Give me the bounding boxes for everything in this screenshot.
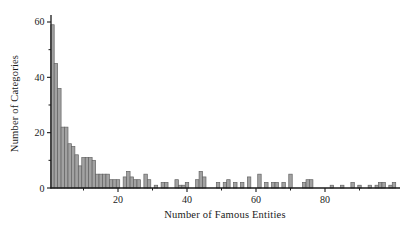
histogram-bar <box>351 182 354 188</box>
histogram-bar <box>234 182 237 188</box>
histogram-bar <box>75 155 78 188</box>
histogram-bar <box>275 182 278 188</box>
histogram-bar <box>282 182 285 188</box>
histogram-bar <box>134 180 137 188</box>
histogram-bar <box>392 182 395 188</box>
histogram-bar <box>309 180 312 188</box>
histogram-bar <box>265 182 268 188</box>
histogram-bar <box>175 180 178 188</box>
histogram-bar <box>82 158 85 188</box>
histogram-bar <box>227 180 230 188</box>
histogram-bar <box>106 174 109 188</box>
histogram-bar <box>54 64 57 189</box>
histogram-bar <box>203 177 206 188</box>
histogram-bar <box>196 180 199 188</box>
histogram-bar <box>96 174 99 188</box>
y-tick-label: 20 <box>35 127 45 138</box>
histogram-bar <box>78 166 81 188</box>
histogram-bar <box>99 174 102 188</box>
histogram-bar <box>289 174 292 188</box>
histogram-bar <box>137 180 140 188</box>
y-tick-label: 40 <box>35 72 45 83</box>
histogram-bar <box>116 180 119 188</box>
histogram-bar <box>303 182 306 188</box>
histogram-bar <box>258 174 261 188</box>
histogram-bar <box>382 182 385 188</box>
histogram-bar <box>130 177 133 188</box>
x-tick-label: 20 <box>113 194 123 205</box>
x-axis-title: Number of Famous Entities <box>125 209 325 220</box>
histogram-bar <box>65 127 68 188</box>
x-tick-label: 40 <box>182 194 192 205</box>
histogram-bar <box>144 174 147 188</box>
histogram-bar <box>92 160 95 188</box>
histogram-bar <box>127 171 130 188</box>
histogram-bar <box>58 88 61 188</box>
histogram-bar <box>306 180 309 188</box>
x-tick-label: 60 <box>251 194 261 205</box>
histogram-bar <box>223 182 226 188</box>
histogram-bar <box>109 180 112 188</box>
y-tick-label: 0 <box>40 183 45 194</box>
histogram-figure: 204060800204060 Number of Famous Entitie… <box>0 0 403 238</box>
histogram-bar <box>123 177 126 188</box>
histogram-bar <box>199 171 202 188</box>
histogram-bar <box>216 182 219 188</box>
histogram-bar <box>102 174 105 188</box>
y-axis-title: Number of Categories <box>9 29 20 179</box>
histogram-plot: 204060800204060 <box>0 0 403 238</box>
histogram-bar <box>68 144 71 188</box>
histogram-bar <box>247 177 250 188</box>
histogram-bar <box>161 182 164 188</box>
histogram-bar <box>378 182 381 188</box>
x-tick-label: 80 <box>320 194 330 205</box>
histogram-bar <box>85 158 88 188</box>
histogram-bar <box>61 127 64 188</box>
y-tick-label: 60 <box>35 16 45 27</box>
histogram-bar <box>165 182 168 188</box>
histogram-bar <box>89 158 92 188</box>
histogram-bar <box>272 182 275 188</box>
histogram-bar <box>147 180 150 188</box>
histogram-bar <box>185 182 188 188</box>
histogram-bar <box>240 182 243 188</box>
histogram-bar <box>113 180 116 188</box>
histogram-bar <box>71 147 74 189</box>
